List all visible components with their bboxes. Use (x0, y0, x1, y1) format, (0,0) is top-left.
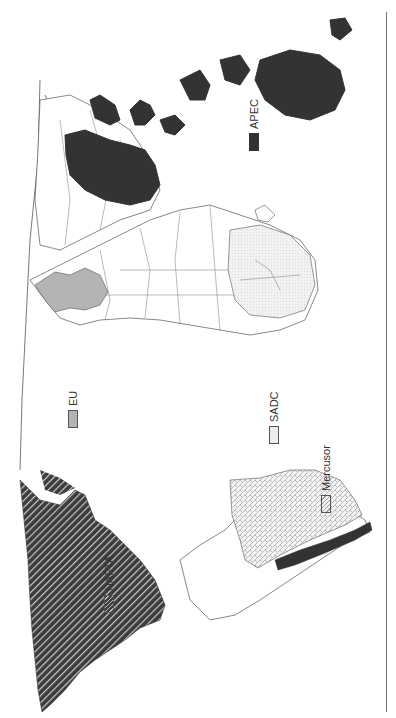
legend-item-eu: EU (67, 391, 79, 428)
legend-label-apec: APEC (248, 99, 260, 129)
legend-item-nafta: NAFTA (103, 556, 115, 613)
legend-item-mercusor: Mercusor (320, 445, 332, 513)
region-nafta (20, 470, 165, 712)
nafta-swatch-icon (104, 595, 114, 613)
region-south-america (180, 470, 372, 620)
legend-label-eu: EU (67, 391, 79, 406)
legend-item-sadc: SADC (268, 391, 280, 444)
legend-label-sadc: SADC (268, 391, 280, 422)
sadc-swatch-icon (269, 426, 279, 444)
region-apec (65, 18, 352, 205)
eu-swatch-icon (68, 410, 78, 428)
legend-item-apec: APEC (248, 99, 260, 151)
world-map-svg (0, 0, 396, 718)
frame-border-line (386, 12, 387, 712)
apec-swatch-icon (249, 133, 259, 151)
legend-label-mercusor: Mercusor (320, 445, 332, 491)
legend-label-nafta: NAFTA (103, 556, 115, 591)
mercusor-swatch-icon (321, 495, 331, 513)
trade-bloc-map: NAFTA EU SADC Mercusor APEC (0, 0, 396, 718)
